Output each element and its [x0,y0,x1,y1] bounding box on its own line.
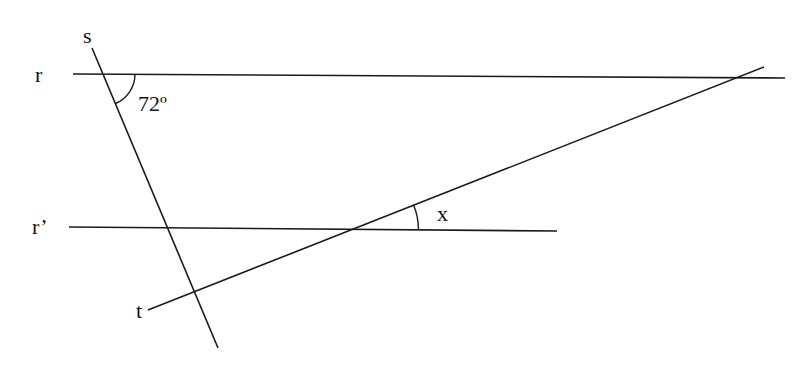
label-t: t [136,298,142,323]
line-t [148,67,764,310]
label-r: r [35,62,43,87]
label-angle-72: 72º [138,91,167,116]
line-r-prime [69,227,557,231]
label-r-prime: r’ [32,214,47,239]
label-angle-x: x [437,201,448,226]
angle-arc-72 [116,74,136,103]
geometry-diagram: r r’ s t 72º x [0,0,807,366]
line-r [73,74,785,78]
label-s: s [83,23,92,48]
angle-arc-x [414,205,419,230]
